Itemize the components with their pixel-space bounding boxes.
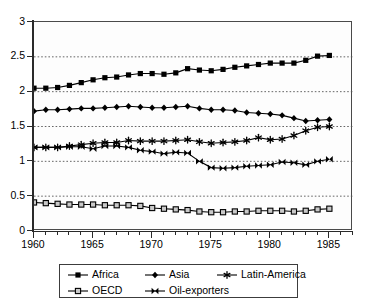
- data-point-filled-diamond: [55, 107, 61, 113]
- series-layer: [34, 53, 333, 215]
- data-point-open-square: [268, 208, 273, 213]
- data-point-open-square: [126, 203, 131, 208]
- series-line: [34, 55, 329, 88]
- data-point-filled-diamond: [303, 118, 309, 124]
- y-axis-tick-label: 2.5: [0, 50, 25, 61]
- x-axis-tick-mark: [187, 232, 188, 235]
- data-point-filled-diamond: [43, 107, 49, 113]
- data-point-bowtie: [291, 160, 298, 166]
- data-point-bowtie: [231, 164, 238, 170]
- data-point-filled-diamond: [208, 107, 214, 113]
- x-axis-tick-mark: [317, 232, 318, 235]
- data-point-open-square: [150, 205, 155, 210]
- legend-item-oil-exporters[interactable]: Oil-exporters: [144, 282, 229, 299]
- data-point-open-square: [256, 208, 261, 213]
- data-point-filled-square: [327, 53, 332, 58]
- x-axis-tick-mark: [57, 232, 58, 235]
- data-point-filled-square: [280, 61, 285, 66]
- x-axis-tick-mark: [45, 232, 46, 235]
- data-point-filled-diamond: [220, 107, 226, 113]
- data-point-filled-square: [244, 63, 249, 68]
- series-oil-exporters: [34, 143, 333, 172]
- y-axis-tick-label: 0: [0, 225, 25, 236]
- data-point-bowtie: [172, 149, 179, 155]
- data-point-filled-diamond: [78, 105, 84, 111]
- data-point-bowtie: [137, 147, 144, 153]
- data-point-open-square: [75, 288, 80, 293]
- series-line: [34, 106, 329, 121]
- data-point-filled-diamond: [232, 107, 238, 113]
- data-point-open-square: [138, 203, 143, 208]
- legend-marker-bowtie-icon: [144, 284, 166, 298]
- data-point-filled-diamond: [34, 108, 37, 114]
- data-point-open-square: [209, 210, 214, 215]
- data-point-filled-diamond: [90, 105, 96, 111]
- data-point-open-square: [244, 209, 249, 214]
- data-point-open-square: [34, 200, 37, 205]
- data-point-filled-square: [161, 72, 166, 77]
- x-axis-tick-mark: [104, 232, 105, 235]
- x-axis-tick-mark: [222, 232, 223, 235]
- data-point-filled-square: [268, 61, 273, 66]
- data-point-bowtie: [255, 162, 262, 168]
- data-point-asterisk: [291, 132, 297, 139]
- y-axis-tick-label: 2: [0, 85, 25, 96]
- data-point-open-square: [291, 209, 296, 214]
- series-asia: [34, 103, 332, 124]
- x-axis-tick-mark: [257, 232, 258, 235]
- data-point-filled-square: [43, 86, 48, 91]
- data-point-open-square: [173, 207, 178, 212]
- data-point-filled-square: [138, 71, 143, 76]
- data-point-filled-square: [34, 86, 37, 91]
- y-axis-tick-label: 1: [0, 155, 25, 166]
- data-point-open-square: [303, 208, 308, 213]
- legend-label: Latin-America: [241, 269, 306, 280]
- y-axis-tick-mark: [27, 126, 33, 127]
- data-point-filled-square: [209, 68, 214, 73]
- data-point-bowtie: [208, 164, 215, 170]
- legend-item-latin-america[interactable]: Latin-America: [216, 266, 306, 283]
- x-axis-tick-label: 1975: [194, 239, 226, 250]
- gridlines: [34, 57, 353, 196]
- series-oecd: [34, 200, 332, 215]
- data-point-filled-square: [67, 83, 72, 88]
- legend-item-africa[interactable]: Africa: [67, 266, 119, 283]
- data-point-filled-square: [185, 66, 190, 71]
- data-point-open-square: [185, 208, 190, 213]
- data-point-open-square: [197, 209, 202, 214]
- series-africa: [34, 53, 332, 91]
- x-axis-tick-mark: [80, 232, 81, 235]
- legend-marker-asterisk-icon: [216, 268, 238, 282]
- x-axis-tick-mark: [340, 232, 341, 235]
- y-axis-tick-label: 3: [0, 16, 25, 27]
- x-axis-tick-mark: [139, 232, 140, 235]
- chart-legend: AfricaAsiaLatin-AmericaOECDOil-exporters: [59, 264, 298, 298]
- x-axis-tick-mark: [234, 232, 235, 235]
- x-axis-tick-mark: [163, 232, 164, 235]
- x-axis-tick-label: 1960: [17, 239, 49, 250]
- data-point-filled-diamond: [267, 111, 273, 117]
- y-axis-tick-mark: [27, 230, 33, 231]
- plot-canvas: [34, 22, 353, 231]
- data-point-open-square: [90, 202, 95, 207]
- x-axis-tick-mark: [175, 232, 176, 235]
- legend-item-asia[interactable]: Asia: [144, 266, 189, 283]
- data-point-open-square: [79, 202, 84, 207]
- data-point-filled-diamond: [161, 104, 167, 110]
- x-axis-tick-mark: [198, 232, 199, 235]
- x-axis-tick-label: 1980: [253, 239, 285, 250]
- data-point-filled-diamond: [66, 106, 72, 112]
- data-point-open-square: [67, 202, 72, 207]
- data-point-open-square: [327, 206, 332, 211]
- data-point-filled-diamond: [291, 115, 297, 121]
- data-point-filled-diamond: [152, 271, 158, 277]
- data-point-bowtie: [267, 162, 274, 168]
- legend-item-oecd[interactable]: OECD: [67, 282, 122, 299]
- data-point-filled-diamond: [185, 103, 191, 109]
- x-axis-tick-mark: [293, 232, 294, 235]
- y-axis-tick-mark: [27, 21, 33, 22]
- data-point-filled-diamond: [126, 103, 132, 109]
- data-point-filled-square: [55, 85, 60, 90]
- data-point-filled-square: [256, 62, 261, 67]
- data-point-filled-diamond: [244, 109, 250, 115]
